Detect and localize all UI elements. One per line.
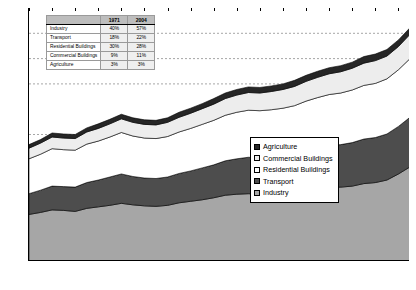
table-cell-sector: Industry [47,25,101,34]
x-axis-tick-mark [52,8,53,11]
legend-swatch-icon [254,155,260,161]
table-row: Agriculture3%3% [47,61,155,70]
x-axis-tick-mark [260,8,261,11]
table-cell-1971: 30% [101,43,128,52]
legend-item: Residential Buildings [254,164,333,176]
table-cell-2004: 28% [128,43,155,52]
y-axis-tick-mark [28,59,29,60]
legend-item-label: Residential Buildings [263,166,330,173]
legend-item: Agriculture [254,141,333,153]
table-body: Industry40%57%Transport18%22%Residential… [47,25,155,70]
legend-item: Industry [254,187,333,199]
legend-item-label: Transport [263,178,294,185]
table-cell-sector: Agriculture [47,61,101,70]
chart-legend: AgricultureCommercial BuildingsResidenti… [250,137,339,203]
table-cell-1971: 18% [101,34,128,43]
y-axis-tick-mark [28,135,29,136]
table-cell-2004: 57% [128,25,155,34]
x-axis-tick-mark [168,8,169,11]
table-cell-1971: 40% [101,25,128,34]
stacked-area-chart: Primary Energy (EJ) 0 501001502002503003… [0,0,416,290]
x-axis-tick-mark [352,8,353,11]
y-axis-tick-mark [28,160,29,161]
table-header-corner [47,16,101,25]
x-axis-tick-mark [98,8,99,11]
x-axis-tick-mark [306,8,307,11]
table-row: Industry40%57% [47,25,155,34]
y-axis-tick-mark [28,210,29,211]
x-axis-tick-mark [121,8,122,11]
legend-swatch-icon [254,144,260,150]
y-axis-tick-mark [28,185,29,186]
x-axis-tick-mark [214,8,215,11]
table-row: Commercial Buildings9%11% [47,52,155,61]
x-axis-tick-mark [191,8,192,11]
y-axis-tick-mark [28,236,29,237]
table-header: 1971 2004 [47,16,155,25]
table-cell-2004: 11% [128,52,155,61]
legend-item-label: Commercial Buildings [263,155,333,162]
y-axis-tick-mark [28,109,29,110]
legend-item: Commercial Buildings [254,153,333,165]
table-cell-sector: Residential Buildings [47,43,101,52]
x-axis-tick-mark [283,8,284,11]
x-axis-tick-mark [398,8,399,11]
legend-swatch-icon [254,190,260,196]
legend-swatch-icon [254,178,260,184]
table-row: Residential Buildings30%28% [47,43,155,52]
table-header-2004: 2004 [128,16,155,25]
table-header-1971: 1971 [101,16,128,25]
x-axis-tick-mark [329,8,330,11]
legend-item: Transport [254,176,333,188]
x-axis-tick-mark [237,8,238,11]
table-cell-1971: 3% [101,61,128,70]
table-cell-2004: 3% [128,61,155,70]
y-axis-tick-mark [28,33,29,34]
x-axis-tick-mark [29,8,30,11]
table-header-row: 1971 2004 [47,16,155,25]
x-axis-tick-mark [75,8,76,11]
table-cell-1971: 9% [101,52,128,61]
sector-share-table: 1971 2004 Industry40%57%Transport18%22%R… [46,15,155,70]
x-axis-tick-mark [375,8,376,11]
table-cell-sector: Commercial Buildings [47,52,101,61]
x-axis-tick-mark [144,8,145,11]
table-cell-sector: Transport [47,34,101,43]
table-row: Transport18%22% [47,34,155,43]
legend-item-label: Industry [263,189,289,196]
y-axis-tick-mark [28,84,29,85]
table-cell-2004: 22% [128,34,155,43]
legend-swatch-icon [254,167,260,173]
legend-item-label: Agriculture [263,143,297,150]
